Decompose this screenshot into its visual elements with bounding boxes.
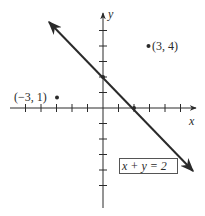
coordinate-plane: y x (3, 4) (−3, 1) x + y = 2	[0, 0, 205, 216]
y-intercept-point	[101, 75, 105, 79]
point-3-4	[147, 44, 151, 48]
x-axis-label: x	[188, 114, 195, 128]
point-neg3-1	[55, 96, 59, 100]
equation-label: x + y = 2	[121, 159, 167, 173]
point-neg3-1-label: (−3, 1)	[14, 90, 47, 104]
x-intercept-point	[132, 106, 136, 110]
y-axis-label: y	[107, 7, 114, 21]
point-3-4-label: (3, 4)	[152, 39, 178, 53]
